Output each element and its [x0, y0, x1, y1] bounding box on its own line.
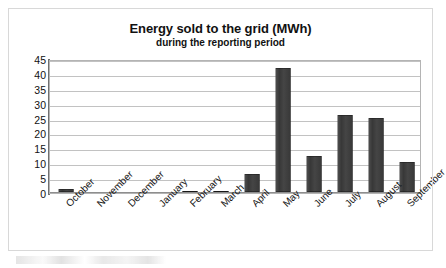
- y-axis-tick-labels: 051015202530354045: [9, 60, 46, 194]
- bar[interactable]: [337, 115, 352, 192]
- x-tick: July: [328, 195, 359, 251]
- bar-slot: [236, 60, 267, 192]
- x-tick: December: [111, 195, 142, 251]
- x-tick: November: [80, 195, 111, 251]
- bar[interactable]: [213, 191, 228, 193]
- bar-slot: [329, 60, 360, 192]
- x-tick: May: [266, 195, 297, 251]
- x-tick: January: [142, 195, 173, 251]
- bar[interactable]: [182, 191, 197, 193]
- x-tick: September: [390, 195, 421, 251]
- bar-series: [50, 61, 420, 193]
- y-tick-label: 5: [12, 173, 46, 185]
- chart-subtitle: during the reporting period: [9, 37, 432, 48]
- y-tick-label: 35: [12, 84, 46, 96]
- bar[interactable]: [58, 189, 73, 192]
- y-tick-label: 45: [12, 54, 46, 66]
- bar-slot: [360, 60, 391, 192]
- plot-area: [49, 60, 421, 194]
- chart-title: Energy sold to the grid (MWh): [9, 21, 432, 36]
- y-tick-label: 10: [12, 158, 46, 170]
- bar-slot: [205, 60, 236, 192]
- bar-slot: [174, 60, 205, 192]
- bar[interactable]: [306, 156, 321, 192]
- bar-slot: [81, 60, 112, 192]
- x-tick: June: [297, 195, 328, 251]
- bar-slot: [391, 60, 422, 192]
- bar-slot: [50, 60, 81, 192]
- bar[interactable]: [368, 118, 383, 192]
- x-tick: March: [204, 195, 235, 251]
- chart-figure: Energy sold to the grid (MWh) during the…: [8, 8, 433, 251]
- bar[interactable]: [275, 68, 290, 192]
- x-tick: February: [173, 195, 204, 251]
- x-tick: April: [235, 195, 266, 251]
- x-tick: August: [359, 195, 390, 251]
- y-tick-label: 0: [12, 188, 46, 200]
- bar-slot: [267, 60, 298, 192]
- x-axis-tick-labels: OctoberNovemberDecemberJanuaryFebruaryMa…: [49, 195, 421, 251]
- bar[interactable]: [244, 174, 259, 192]
- y-tick-label: 20: [12, 128, 46, 140]
- y-tick-label: 25: [12, 114, 46, 126]
- x-tick: October: [49, 195, 80, 251]
- y-tick-label: 40: [12, 69, 46, 81]
- y-tick-label: 30: [12, 99, 46, 111]
- scan-artifact: [16, 256, 166, 264]
- bar-slot: [298, 60, 329, 192]
- y-tick-label: 15: [12, 143, 46, 155]
